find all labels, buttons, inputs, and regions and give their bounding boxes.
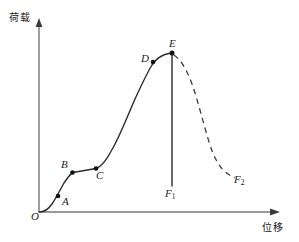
loading-curve — [39, 53, 172, 212]
point-label-d: D — [141, 53, 149, 64]
point-marker-A — [56, 194, 61, 199]
point-label-f2: F2 — [234, 174, 244, 185]
point-label-f1-base: F — [165, 187, 172, 199]
point-label-c: C — [96, 170, 103, 181]
point-marker-B — [70, 170, 75, 175]
data-point-markers — [56, 51, 175, 199]
point-marker-E — [170, 51, 175, 56]
y-axis — [36, 18, 43, 212]
point-label-f1: F1 — [165, 188, 175, 199]
point-label-f1-subscript: 1 — [172, 192, 176, 201]
point-label-a: A — [62, 196, 69, 207]
y-axis-label: 荷载 — [9, 13, 30, 23]
load-displacement-figure: 荷载 位移 O A B C D E F1 F2 — [0, 0, 299, 242]
softening-dashed-curve — [174, 55, 235, 178]
x-axis-label: 位移 — [262, 223, 283, 233]
x-axis — [39, 208, 280, 215]
plot-canvas — [0, 0, 299, 242]
point-label-f2-base: F — [234, 173, 241, 185]
point-label-f2-subscript: 2 — [241, 178, 245, 187]
origin-label: O — [31, 211, 39, 222]
point-marker-D — [151, 60, 156, 65]
point-label-b: B — [61, 159, 68, 170]
point-label-e: E — [169, 38, 176, 49]
